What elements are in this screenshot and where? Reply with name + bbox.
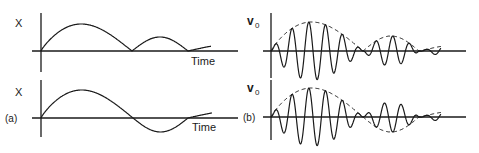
panel-b-bottom-am-waveform-signed-envelope [263,80,466,146]
panel-b-top-am-waveform-rectified-envelope [263,13,466,80]
panel-b-label: (b) [243,112,255,123]
signal-curve [41,90,212,132]
time-label-a-bottom: Time [192,121,216,133]
time-label-a-top: Time [191,55,215,67]
x-axis-label-a-bottom: X [15,86,23,98]
v0-subscript-b-bottom: 0 [255,88,260,97]
v0-axis-label-b-bottom: v [247,81,254,95]
v0-subscript-b-top: 0 [255,21,260,30]
signal-curve [41,24,211,51]
envelope-dashed [271,22,441,51]
modulation-diagram: X Time X (a) Time v 0 v 0 (b) [0,0,479,153]
panel-a-label: (a) [5,113,17,124]
x-axis-label-a-top: X [15,17,23,29]
v0-axis-label-b-top: v [247,14,254,28]
